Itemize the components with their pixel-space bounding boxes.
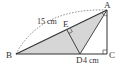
geometry-diagram: A B C D E 15 cm 4 cm	[0, 0, 128, 70]
label-a: A	[104, 0, 111, 10]
label-b: B	[6, 50, 12, 60]
label-e: E	[63, 19, 69, 29]
label-15cm: 15 cm	[37, 17, 58, 26]
label-c: C	[109, 50, 115, 60]
label-4cm: 4 cm	[83, 56, 100, 65]
label-d: D	[76, 55, 83, 65]
